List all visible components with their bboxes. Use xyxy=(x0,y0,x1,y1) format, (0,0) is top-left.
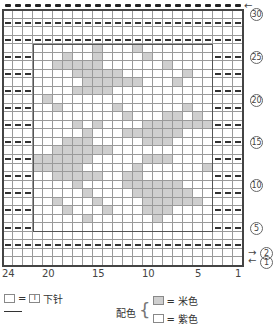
chart-cell xyxy=(123,257,133,266)
chart-cell xyxy=(113,61,123,70)
chart-cell xyxy=(23,10,33,19)
chart-cell xyxy=(153,249,163,258)
chart-cell xyxy=(103,138,113,147)
chart-cell xyxy=(13,232,23,241)
chart-cell xyxy=(83,146,93,155)
chart-cell xyxy=(143,155,153,164)
chart-cell xyxy=(183,164,193,173)
chart-cell xyxy=(43,27,53,36)
chart-cell xyxy=(193,223,203,232)
chart-cell xyxy=(153,87,163,96)
chart-cell xyxy=(53,78,63,87)
chart-cell xyxy=(213,61,223,70)
chart-cell xyxy=(143,61,153,70)
chart-cell xyxy=(73,198,83,207)
chart-cell xyxy=(193,129,203,138)
bind-off-symbol xyxy=(15,4,21,7)
purl-symbol xyxy=(225,192,231,194)
chart-cell xyxy=(183,104,193,113)
chart-cell xyxy=(73,215,83,224)
chart-cell xyxy=(63,10,73,19)
chart-cell xyxy=(63,129,73,138)
purl-symbol xyxy=(235,192,241,194)
chart-cell xyxy=(33,53,43,62)
purl-symbol xyxy=(225,227,231,229)
chart-cell xyxy=(123,146,133,155)
chart-cell xyxy=(153,146,163,155)
chart-cell xyxy=(73,10,83,19)
chart-cell xyxy=(3,95,13,104)
chart-cell xyxy=(143,70,153,79)
chart-cell xyxy=(173,257,183,266)
chart-cell xyxy=(23,27,33,36)
chart-cell xyxy=(83,61,93,70)
chart-cell xyxy=(183,146,193,155)
chart-cell xyxy=(203,70,213,79)
chart-cell xyxy=(103,53,113,62)
chart-cell xyxy=(183,189,193,198)
chart-cell xyxy=(113,155,123,164)
chart-cell xyxy=(203,10,213,19)
chart-cell xyxy=(33,138,43,147)
chart-cell xyxy=(183,129,193,138)
chart-cell xyxy=(113,87,123,96)
chart-cell xyxy=(123,189,133,198)
chart-cell xyxy=(103,198,113,207)
chart-cell xyxy=(143,95,153,104)
chart-cell xyxy=(203,206,213,215)
bind-off-symbol xyxy=(105,4,111,7)
legend-purl-line xyxy=(4,311,22,312)
purl-symbol xyxy=(125,22,131,24)
purl-symbol xyxy=(65,22,71,24)
purl-symbol xyxy=(85,22,91,24)
chart-cell xyxy=(163,95,173,104)
purl-symbol xyxy=(155,244,161,246)
chart-cell xyxy=(103,61,113,70)
chart-cell xyxy=(233,232,243,241)
chart-cell xyxy=(43,112,53,121)
chart-cell xyxy=(123,10,133,19)
purl-symbol xyxy=(215,227,221,229)
chart-cell xyxy=(213,146,223,155)
chart-cell xyxy=(33,129,43,138)
chart-cell xyxy=(73,70,83,79)
chart-cell xyxy=(193,10,203,19)
legend-knit: = I 下针 xyxy=(4,291,63,306)
chart-cell xyxy=(183,249,193,258)
purl-symbol xyxy=(95,22,101,24)
chart-cell xyxy=(83,164,93,173)
purl-symbol xyxy=(185,244,191,246)
chart-cell xyxy=(153,172,163,181)
chart-cell xyxy=(83,138,93,147)
purl-symbol xyxy=(25,124,31,126)
chart-cell xyxy=(43,249,53,258)
chart-cell xyxy=(123,215,133,224)
chart-cell xyxy=(43,257,53,266)
chart-cell xyxy=(3,27,13,36)
chart-cell xyxy=(103,249,113,258)
chart-cell xyxy=(183,112,193,121)
bind-off-symbol xyxy=(85,4,91,7)
chart-cell xyxy=(3,249,13,258)
bind-off-symbol xyxy=(55,4,61,7)
chart-cell xyxy=(113,27,123,36)
purple-label: = 紫色 xyxy=(166,311,198,326)
chart-cell xyxy=(33,78,43,87)
chart-cell xyxy=(113,206,123,215)
purl-symbol xyxy=(5,73,11,75)
chart-cell xyxy=(153,27,163,36)
chart-cell xyxy=(163,61,173,70)
chart-cell xyxy=(203,44,213,53)
chart-cell xyxy=(103,232,113,241)
chart-cell xyxy=(43,155,53,164)
chart-cell xyxy=(33,121,43,130)
chart-cell xyxy=(53,121,63,130)
chart-cell xyxy=(183,27,193,36)
purl-symbol xyxy=(35,39,41,41)
column-label: 5 xyxy=(195,268,201,279)
chart-cell xyxy=(53,164,63,173)
row-label: 1 xyxy=(260,256,273,269)
colorwork-label: 配色 xyxy=(116,305,136,320)
purl-symbol xyxy=(35,22,41,24)
chart-cell xyxy=(153,121,163,130)
